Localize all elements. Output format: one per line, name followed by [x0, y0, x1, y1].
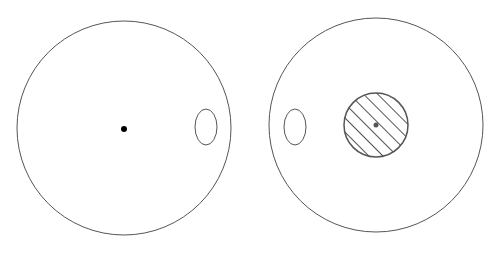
right-center-dot	[374, 123, 379, 128]
left-panel	[17, 21, 231, 235]
left-center-dot	[121, 126, 127, 132]
right-side-ellipse	[284, 109, 306, 145]
left-side-ellipse	[195, 109, 217, 145]
right-panel	[269, 18, 483, 232]
diagram-canvas	[0, 0, 492, 253]
